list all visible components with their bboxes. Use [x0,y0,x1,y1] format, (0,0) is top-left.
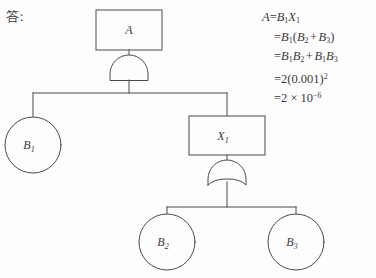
equation-line-5: =2 × 10−6 [262,86,338,106]
equation-line-2: =B1(B2+B3) [262,28,338,48]
equation-line-1: A=B1X1 [262,8,338,28]
or-gate-symbol [208,160,246,185]
equation-line-3: =B1B2+B1B3 [262,47,338,67]
answer-figure-page: 答: [0,0,376,278]
equation-line-4: =2(0.001)2 [262,67,338,87]
node-A-label: A [124,23,133,37]
and-gate-symbol [110,55,148,80]
equation-derivation: A=B1X1 =B1(B2+B3) =B1B2+B1B3 =2(0.001)2 … [262,8,338,106]
